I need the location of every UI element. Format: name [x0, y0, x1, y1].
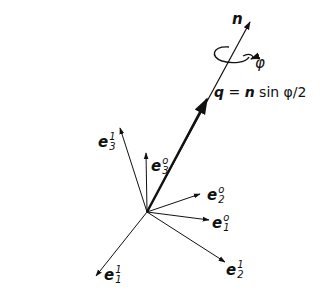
vector-e3-1 — [120, 128, 147, 212]
label-e1-1: e11 — [104, 265, 122, 285]
vector-e3-0 — [146, 153, 147, 212]
label-phi: φ — [255, 56, 265, 71]
label-equals: = — [228, 84, 240, 100]
label-q-n: n — [245, 84, 255, 100]
diagram-canvas — [0, 0, 328, 290]
label-n: n — [232, 12, 243, 27]
vector-e1-0 — [147, 212, 209, 220]
label-e2-0: eo2 — [207, 185, 225, 205]
label-e3-0: eo3 — [151, 156, 169, 176]
label-e2-1: e12 — [226, 260, 244, 280]
label-q: q — [214, 84, 224, 100]
label-q-expr: sin φ/2 — [259, 84, 306, 100]
label-e1-0: eo1 — [212, 213, 230, 233]
label-q-equation: q = n sin φ/2 — [214, 85, 306, 99]
label-e3-1: e13 — [98, 132, 116, 152]
